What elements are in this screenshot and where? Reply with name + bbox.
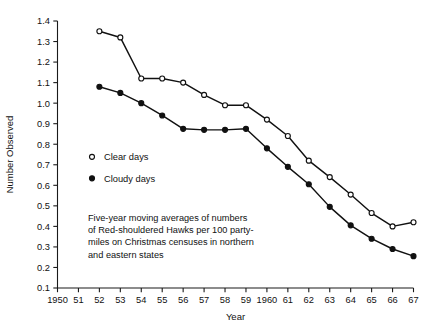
y-tick-label: 0.5 [37,201,50,211]
data-point [327,175,332,180]
data-point [160,113,165,118]
x-tick-label: 66 [387,295,397,305]
data-point [306,158,311,163]
data-point [285,164,290,169]
data-point [181,80,186,85]
y-tick-label: 1.1 [37,78,50,88]
x-tick-label: 64 [346,295,356,305]
x-tick-label: 56 [178,295,188,305]
y-tick-label: 0.9 [37,119,50,129]
data-point [411,220,416,225]
data-point [202,92,207,97]
x-tick-label: 51 [73,295,83,305]
caption-line: and eastern states [88,250,164,260]
data-point [285,134,290,139]
x-tick-label: 1960 [257,295,278,305]
data-point [97,84,102,89]
data-point [369,236,374,241]
chart-legend: Clear daysCloudy days [90,152,156,184]
data-point [243,126,248,131]
x-tick-label: 62 [304,295,314,305]
y-tick-label: 1.3 [37,37,50,47]
y-tick-label: 0.3 [37,242,50,252]
data-point [118,35,123,40]
chart-annotation: Five-year moving averages of numbersof R… [88,213,254,260]
x-tick-label: 53 [115,295,125,305]
data-point [369,211,374,216]
data-point [390,246,395,251]
data-point [97,29,102,34]
data-point [223,127,228,132]
data-point [160,76,165,81]
y-axis-title: Number Observed [4,116,15,194]
x-tick-label: 55 [157,295,167,305]
data-point [264,117,269,122]
y-tick-label: 0.2 [37,263,50,273]
y-axis-ticks: 0.10.20.30.40.50.60.70.80.91.01.11.21.31… [37,16,57,293]
data-point [139,76,144,81]
x-axis-ticks: 1950515253545556575859196061626364656667 [47,288,419,305]
series-clear-days [97,29,416,229]
y-tick-label: 0.6 [37,181,50,191]
data-point [327,204,332,209]
x-axis-title: Year [226,311,245,322]
legend-filled-circle-icon [90,176,95,181]
y-tick-label: 0.1 [37,283,50,293]
data-point [390,224,395,229]
x-tick-label: 1950 [47,295,68,305]
x-tick-label: 67 [408,295,418,305]
line-chart: 0.10.20.30.40.50.60.70.80.91.01.11.21.31… [0,0,430,326]
chart-figure: 0.10.20.30.40.50.60.70.80.91.01.11.21.31… [0,0,430,326]
legend-label: Cloudy days [104,174,156,184]
caption-line: Five-year moving averages of numbers [88,213,248,223]
legend-label: Clear days [104,152,149,162]
x-tick-label: 57 [199,295,209,305]
caption-line: of Red-shouldered Hawks per 100 party- [88,225,253,235]
data-point [223,103,228,108]
data-point [348,223,353,228]
x-tick-label: 52 [94,295,104,305]
data-point [139,101,144,106]
data-point [264,146,269,151]
legend-open-circle-icon [90,154,95,159]
x-tick-label: 63 [325,295,335,305]
y-tick-label: 1.2 [37,57,50,67]
x-tick-label: 58 [220,295,230,305]
data-point [243,103,248,108]
data-point [181,126,186,131]
x-tick-label: 61 [283,295,293,305]
caption-line: miles on Christmas censuses in northern [88,237,254,247]
data-point [348,192,353,197]
x-tick-label: 65 [366,295,376,305]
y-tick-label: 1.0 [37,99,50,109]
data-series-layer [97,29,416,259]
y-tick-label: 0.4 [37,222,50,232]
y-tick-label: 0.7 [37,160,50,170]
data-point [306,182,311,187]
data-point [118,90,123,95]
x-tick-label: 59 [241,295,251,305]
data-point [202,127,207,132]
x-tick-label: 54 [136,295,146,305]
series-line [99,31,413,226]
data-point [411,254,416,259]
y-tick-label: 1.4 [37,16,50,26]
y-tick-label: 0.8 [37,140,50,150]
